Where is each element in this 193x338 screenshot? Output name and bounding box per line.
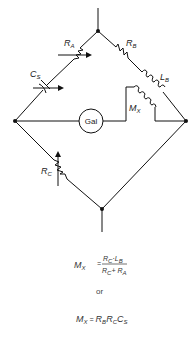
galvanometer: Gal [79, 109, 103, 133]
equation-1: MX = RC·LB RC+ RA [74, 255, 127, 276]
or-connector: or [96, 287, 103, 296]
ra-label: RA [64, 38, 75, 49]
variable-arrow-icon [58, 85, 64, 91]
resistor-ra [50, 31, 98, 82]
rb-label: RB [126, 38, 137, 49]
equation-2: MX=RBRCCS [76, 314, 127, 325]
resistor-rb [98, 31, 142, 72]
mx-label: MX [129, 103, 142, 114]
rc-label: RC [41, 166, 53, 177]
svg-text:RC+ RA: RC+ RA [102, 267, 127, 276]
svg-text:RC·LB: RC·LB [103, 255, 123, 264]
variable-arrow-icon [86, 52, 92, 58]
lb-label: LB [160, 72, 169, 83]
resistor-rc [15, 121, 102, 209]
variable-arrow-icon [55, 151, 61, 157]
cs-label: CS [30, 69, 41, 80]
bridge-circuit-diagram: RA CS RB LB Gal MX [0, 0, 193, 338]
lower-right-wire [102, 121, 186, 209]
svg-text:=: = [97, 260, 101, 267]
svg-text:Gal: Gal [85, 117, 98, 126]
capacitor-cs [15, 80, 64, 121]
svg-text:MX=RBRCCS: MX=RBRCCS [76, 314, 127, 325]
svg-text:MX: MX [74, 260, 87, 271]
